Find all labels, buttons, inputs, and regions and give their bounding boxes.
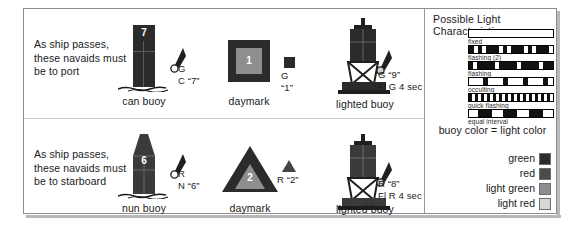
light-bar-fixed	[468, 29, 554, 38]
daymark-triangle-number: 2	[235, 172, 265, 183]
light-bar-segment	[550, 94, 553, 101]
legend-swatch-green	[539, 153, 551, 165]
light-bar-caption: occulting	[468, 86, 495, 93]
light-bar-quick-flashing	[468, 93, 554, 102]
can-buoy-caption: can buoy	[113, 95, 175, 107]
light-bar-segment	[507, 46, 511, 53]
water-line-bottom	[118, 192, 170, 199]
light-bar-segment	[484, 94, 487, 101]
can-buoy-seam-vertical	[143, 41, 144, 87]
light-bar-segment	[503, 78, 508, 85]
light-bar-segment	[532, 94, 535, 101]
light-bar-segment	[520, 94, 523, 101]
light-bar-segment	[472, 94, 475, 101]
light-bar-equal-interval	[468, 109, 554, 118]
light-bar-segment	[544, 94, 547, 101]
light-bar-segment	[508, 94, 511, 101]
legend-swatch-red	[539, 168, 551, 180]
frame-shadow-bottom	[26, 215, 561, 218]
light-bar-segment	[503, 110, 517, 117]
lighted-buoy-green-caption: lighted buoy	[312, 98, 418, 110]
light-bar-segment	[543, 78, 548, 85]
light-bar-segment	[478, 110, 492, 117]
light-bar-segment	[483, 78, 488, 85]
lighted-buoy-red-label: R “8” Fl R 4 sec	[378, 178, 422, 201]
light-bar-flashing-2-	[468, 45, 554, 54]
daymark-square-label: G “1”	[281, 70, 293, 93]
legend-swatch-light-green	[539, 183, 551, 195]
light-bar-segment	[523, 78, 528, 85]
light-bar-segment	[529, 110, 543, 117]
mini-square-icon	[284, 57, 295, 68]
light-bar-segment	[524, 46, 528, 53]
light-bar-caption: flashing (2)	[468, 54, 501, 61]
daymark-triangle-caption: daymark	[219, 202, 281, 214]
legend-label-red: red	[420, 167, 535, 179]
legend-label-light-green: light green	[420, 182, 535, 194]
water-line-top	[118, 85, 170, 92]
light-bar-segment	[538, 94, 541, 101]
nun-buoy-light-label: R N “6”	[178, 168, 200, 191]
light-bar-segment	[514, 94, 517, 101]
legend-label-light-red: light red	[420, 197, 535, 209]
light-bar-segment	[490, 94, 493, 101]
daymark-square-caption: daymark	[218, 95, 280, 107]
light-bar-segment	[495, 62, 499, 69]
light-bar-segment	[532, 46, 536, 53]
light-bar-segment	[502, 94, 505, 101]
light-bar-caption: flashing	[468, 70, 491, 77]
lighted-buoy-red-caption: lighted buoy	[312, 203, 418, 215]
nun-buoy-caption: nun buoy	[113, 202, 175, 214]
light-bar-segment	[482, 46, 486, 53]
instruction-starboard: As ship passes, these navaids must be to…	[34, 148, 179, 189]
lighted-buoy-green-label: G “9” Fl G 4 sec	[378, 69, 422, 92]
light-bar-caption: fixed	[468, 38, 482, 45]
frame-shadow-right	[557, 11, 560, 218]
can-buoy-seam-horizontal	[133, 51, 155, 52]
buoy-color-note: buoy color = light color	[430, 124, 555, 136]
can-buoy-number: 7	[133, 27, 155, 38]
light-bar-segment	[517, 62, 521, 69]
light-bar-segment	[549, 46, 553, 53]
light-bar-flashing	[468, 61, 554, 70]
light-bar-segment	[526, 94, 529, 101]
light-bar-segment	[539, 62, 543, 69]
legend-swatch-light-red	[539, 198, 551, 210]
can-buoy-light-label: G C “7”	[178, 63, 200, 86]
light-bar-occulting	[468, 77, 554, 86]
light-bar-caption: quick flashing	[468, 102, 509, 109]
daymark-triangle-label: R “2”	[277, 174, 299, 186]
mini-triangle-icon	[282, 160, 296, 172]
nun-buoy-number: 6	[133, 155, 155, 166]
light-bar-segment	[474, 46, 478, 53]
row-divider	[24, 118, 424, 119]
navaids-diagram: As ship passes, these navaids must be to…	[0, 0, 580, 227]
light-bar-segment	[478, 94, 481, 101]
legend-label-green: green	[420, 152, 535, 164]
light-bar-segment	[499, 46, 503, 53]
light-bar-segment	[473, 62, 477, 69]
light-bar-segment	[496, 94, 499, 101]
daymark-square-number: 1	[236, 55, 262, 66]
